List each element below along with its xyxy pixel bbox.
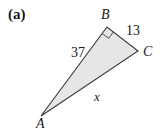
side-label-bc: 13 [126,23,140,38]
vertex-label-c: C [143,44,153,59]
triangle-abc [41,27,138,116]
part-label: (a) [8,6,26,23]
side-label-ab: 37 [71,45,85,60]
vertex-label-b: B [101,7,110,22]
side-label-ac: x [93,89,100,104]
vertex-label-a: A [35,116,45,128]
right-triangle-figure: (a) B C A 37 13 x [0,0,162,128]
